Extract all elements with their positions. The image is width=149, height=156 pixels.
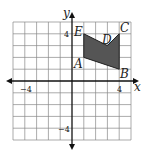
y-tick-4: 4	[64, 30, 69, 39]
y-axis-label: y	[62, 6, 70, 20]
vertex-label-B: B	[119, 67, 129, 81]
vertex-label-A: A	[73, 57, 83, 71]
x-axis-arrow-left-icon	[6, 78, 12, 84]
vertex-label-E: E	[73, 25, 83, 39]
y-axis-arrow-up-icon	[69, 12, 75, 18]
x-tick-neg4: −4	[20, 85, 32, 94]
coordinate-plane: x y −4 4 4 −4 E D C B A	[0, 0, 149, 156]
x-axis-label: x	[134, 80, 141, 94]
y-tick-neg4: −4	[58, 125, 70, 134]
x-tick-4: 4	[117, 85, 122, 94]
vertex-label-C: C	[120, 21, 129, 35]
vertex-label-D: D	[101, 33, 112, 47]
y-axis-arrow-down-icon	[69, 144, 75, 150]
